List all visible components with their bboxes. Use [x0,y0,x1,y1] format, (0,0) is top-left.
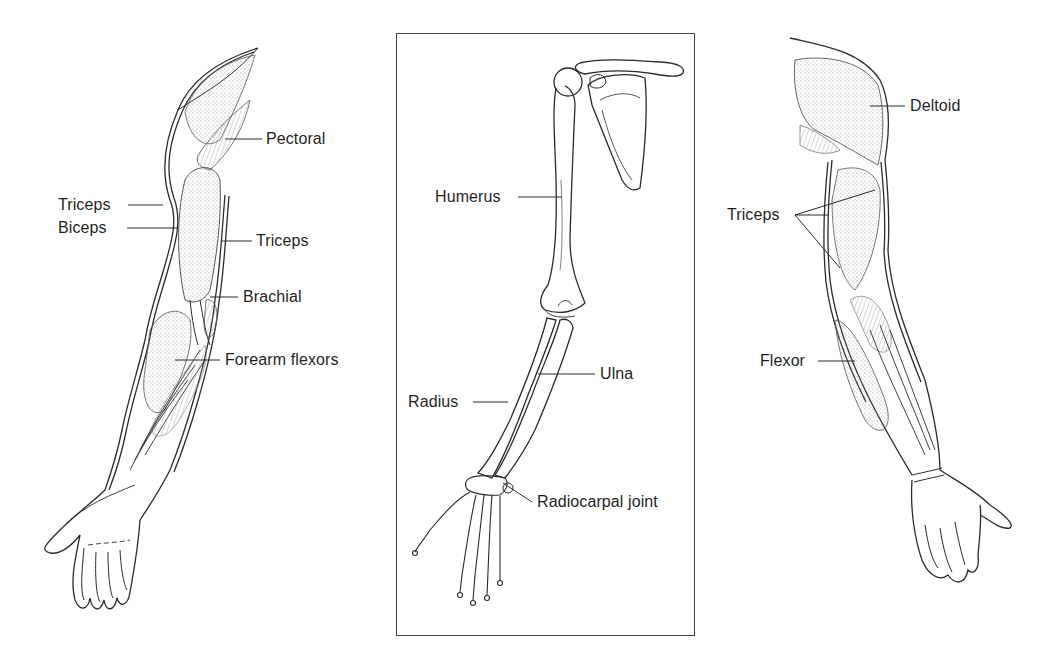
label-radius: Radius [408,393,458,411]
label-triceps-posterior: Triceps [727,206,780,224]
label-forearm-flexors: Forearm flexors [225,351,339,369]
right-hand-outline [912,480,981,582]
label-humerus: Humerus [435,188,501,206]
label-flexor: Flexor [760,352,805,370]
label-biceps: Biceps [58,219,107,237]
left-biceps-muscle [179,168,221,302]
right-arm-outline-outer [885,160,1011,528]
label-pectoral: Pectoral [266,130,326,148]
right-triceps-muscle [832,168,880,290]
left-arm-drawing [45,48,258,609]
anatomy-figure: Pectoral Triceps Biceps Triceps Brachial… [0,0,1041,647]
label-ulna: Ulna [600,365,633,383]
skeleton-panel-frame [396,33,695,636]
label-brachial: Brachial [243,288,302,306]
label-deltoid: Deltoid [910,97,961,115]
label-triceps-right: Triceps [256,232,309,250]
right-arm-drawing [790,38,1011,582]
label-triceps-left: Triceps [58,196,111,214]
label-radiocarpal-joint: Radiocarpal joint [537,493,658,511]
